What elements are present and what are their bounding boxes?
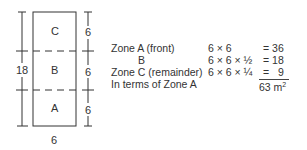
calc-label: Zone A (front) xyxy=(111,42,175,54)
calc-label: Zone C (remainder) xyxy=(111,66,203,78)
calc-result: = 36 xyxy=(263,42,284,54)
zone-c-depth: 6 xyxy=(85,26,91,38)
zone-c-label: C xyxy=(51,25,59,37)
total-area: 63 m2 xyxy=(259,79,289,93)
calc-label: B xyxy=(138,54,145,66)
calc-expr: 6 × 6 × ¼ xyxy=(208,66,252,78)
calc-result: = 18 xyxy=(263,54,284,66)
calc-expr: 6 × 6 × ½ xyxy=(208,54,252,66)
calc-result: = 9 xyxy=(263,66,284,78)
zone-b-depth: 6 xyxy=(85,66,91,78)
total-depth-label: 18 xyxy=(16,64,28,76)
zone-a-label: A xyxy=(51,102,58,114)
width-label: 6 xyxy=(51,134,57,146)
calc-label: In terms of Zone A xyxy=(111,78,197,90)
zone-b-label: B xyxy=(51,64,58,76)
calc-expr: 6 × 6 xyxy=(208,42,232,54)
zone-a-depth: 6 xyxy=(85,104,91,116)
